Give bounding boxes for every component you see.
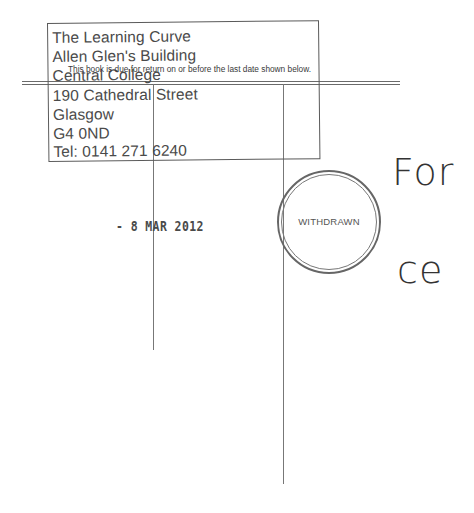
stamp-line: Tel: 0141 271 6240 <box>53 142 187 160</box>
due-date-notice: This book is due for return on or before… <box>68 64 311 74</box>
withdrawn-stamp: WITHDRAWN <box>277 170 381 274</box>
return-date-stamp: - 8 MAR 2012 <box>116 218 204 234</box>
stamp-line: G4 0ND <box>53 124 110 142</box>
stamp-line: Glasgow <box>53 105 114 123</box>
stamp-line: 190 Cathedral Street <box>53 85 198 104</box>
library-address-stamp: The Learning Curve Allen Glen's Building… <box>47 20 320 162</box>
title-fragment: ce <box>397 248 443 292</box>
stamp-line: Allen Glen's Building <box>52 46 196 65</box>
withdrawn-label: WITHDRAWN <box>279 216 379 227</box>
stamp-line: The Learning Curve <box>52 27 191 45</box>
title-fragment: For <box>392 150 454 194</box>
